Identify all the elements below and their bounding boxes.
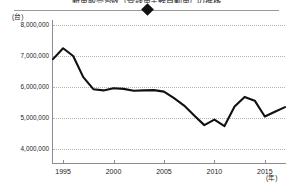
chart-screenshot: 新車販売台数（登録車＋軽自動車）の推移 (台) (年) 8,000,0007,0…: [0, 0, 293, 189]
series-polyline: [53, 48, 285, 126]
series-line-chart: [0, 0, 293, 189]
